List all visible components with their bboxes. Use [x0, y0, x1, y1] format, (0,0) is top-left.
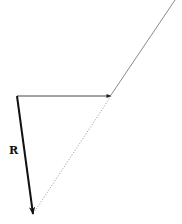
- resultant-arrow: [17, 96, 33, 214]
- dotted-line: [35, 96, 111, 211]
- resultant-label: R: [9, 144, 19, 157]
- incoming-line: [111, 0, 175, 95]
- vector-diagram: R: [0, 0, 182, 224]
